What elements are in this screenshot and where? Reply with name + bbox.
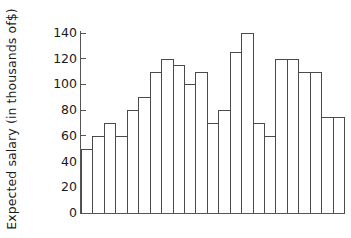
y-axis-tick: 100 [0, 77, 86, 91]
y-axis-tick: 120 [0, 52, 86, 66]
y-axis-tick-label: 20 [61, 180, 81, 194]
y-axis-tick: 0 [0, 206, 86, 220]
y-axis-tick: 80 [0, 103, 86, 117]
chart-title [0, 0, 351, 10]
bar [333, 117, 345, 213]
y-axis-tick-label: 80 [61, 103, 81, 117]
y-axis-tick-label: 40 [61, 155, 81, 169]
y-axis-tick: 140 [0, 26, 86, 40]
y-axis-tick-label: 100 [53, 77, 81, 91]
bar-chart: Expected salary (in thousands of$) 14012… [0, 0, 351, 238]
y-axis-tick-label: 0 [69, 206, 81, 220]
y-axis-tick-label: 60 [61, 129, 81, 143]
y-axis-tick: 20 [0, 180, 86, 194]
y-axis-tick: 40 [0, 155, 86, 169]
bars-container [81, 20, 345, 213]
y-axis-tick: 60 [0, 129, 86, 143]
y-axis-tick-label: 120 [53, 52, 81, 66]
y-axis-tick-label: 140 [53, 26, 81, 40]
x-axis-line [80, 213, 345, 214]
